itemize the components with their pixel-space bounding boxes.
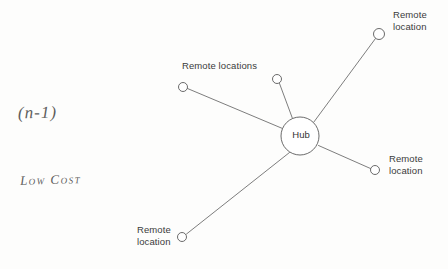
edge-hub-to-remote-2 (280, 84, 293, 119)
node-remote-1[interactable] (179, 83, 188, 92)
node-remote-4[interactable] (371, 166, 380, 175)
node-label-bottom-left: Remote location (137, 224, 171, 247)
network-graph (0, 0, 448, 269)
node-remote-3[interactable] (374, 29, 385, 40)
handwritten-annotation-cost: Low Cost (20, 171, 82, 189)
edge-hub-to-remote-5 (187, 153, 290, 235)
handwritten-annotation-formula: (n-1) (18, 103, 57, 124)
edge-hub-to-remote-1 (188, 89, 283, 129)
diagram-canvas: Hub Remote locations Remote location Rem… (0, 0, 448, 269)
node-label-top-right: Remote location (393, 9, 427, 32)
edge-hub-to-remote-3 (314, 39, 376, 123)
node-remote-5[interactable] (178, 233, 187, 242)
edge-hub-to-remote-4 (319, 146, 371, 169)
hub-label: Hub (281, 129, 321, 140)
node-remote-2[interactable] (273, 75, 282, 84)
node-label-remote-locations: Remote locations (182, 60, 257, 72)
node-label-right: Remote location (389, 153, 423, 176)
